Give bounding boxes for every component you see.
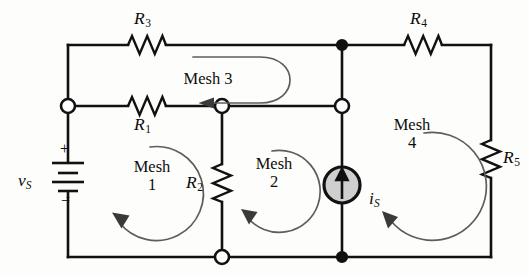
label-vs-plus: + (60, 140, 69, 158)
resistor-r4 (404, 36, 442, 54)
label-mesh-2: Mesh 2 (243, 155, 305, 191)
label-r2-sub: 2 (197, 181, 203, 193)
current-source-is (324, 167, 360, 203)
node-filled-top (337, 40, 347, 50)
label-vs: vS (18, 170, 32, 191)
resistor-r2 (213, 164, 231, 202)
label-is-sub: S (374, 197, 380, 209)
circuit-canvas (0, 0, 529, 276)
label-r1: R1 (134, 114, 150, 135)
node-open-center-bottom (215, 250, 229, 264)
label-r5-base: R (503, 147, 514, 167)
label-vs-base: v (18, 170, 26, 190)
label-mesh-4-text: Mesh (381, 116, 443, 134)
label-r4-base: R (410, 8, 421, 28)
label-mesh-2-text: Mesh (243, 155, 305, 173)
label-mesh-3: Mesh 3 (168, 70, 248, 88)
label-mesh-1: Mesh 1 (121, 158, 183, 194)
label-mesh-2-number: 2 (243, 173, 305, 191)
circuit-diagram: R3 R1 R4 R2 R5 vS + − iS Mesh 1 Mesh 2 M… (0, 0, 529, 276)
label-vs-sub: S (26, 179, 32, 191)
label-r4-sub: 4 (421, 17, 427, 29)
label-is: iS (369, 188, 380, 209)
label-r2: R2 (186, 172, 202, 193)
node-open-center-top (215, 99, 229, 113)
label-mesh-1-number: 1 (121, 176, 183, 194)
label-r5-sub: 5 (514, 156, 520, 168)
label-mesh-4: Mesh 4 (381, 116, 443, 152)
label-r2-base: R (186, 172, 197, 192)
label-r3-base: R (134, 8, 145, 28)
node-filled-bottom (337, 252, 347, 262)
label-r4: R4 (410, 8, 426, 29)
label-r1-base: R (134, 114, 145, 134)
label-r1-sub: 1 (145, 123, 151, 135)
node-open-left (61, 99, 75, 113)
label-mesh-1-text: Mesh (121, 158, 183, 176)
label-vs-minus: − (61, 192, 70, 210)
label-mesh-4-number: 4 (381, 134, 443, 152)
resistor-r3 (128, 36, 166, 54)
label-r5: R5 (503, 147, 519, 168)
label-r3-sub: 3 (145, 17, 151, 29)
resistor-r1 (128, 97, 166, 115)
label-mesh-3-text: Mesh 3 (168, 70, 248, 88)
node-open-right-top (335, 99, 349, 113)
label-r3: R3 (134, 8, 150, 29)
